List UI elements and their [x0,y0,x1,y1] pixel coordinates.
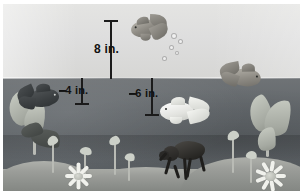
measurement-minus-6-in: –6 in. [129,78,185,120]
flower-right [250,161,290,191]
measurement-minus-6-in-label: –6 in. [129,87,158,99]
beetle-leg-2 [173,165,180,179]
measurement-8-in: 8 in. [95,20,155,82]
flower-left [61,163,95,189]
beetle-leg-4 [186,158,192,178]
plant-right-broad [246,91,294,157]
air-bubble-5 [162,56,167,61]
water-beetle [159,141,211,185]
air-bubble-1 [171,33,177,39]
measurement-minus-4-in-label: –4 in. [59,84,88,96]
illustration-frame: 8 in. –4 in. –6 in. [3,4,300,191]
bud-stem-3 [109,133,123,175]
bud-stem-1 [47,133,61,173]
fish-surface-goldfish [218,60,266,91]
bud-stem-5 [227,127,241,173]
air-bubble-2 [178,39,183,44]
measurement-8-in-label: 8 in. [94,42,119,56]
air-bubble-4 [175,51,179,55]
beetle-leg-5 [199,156,206,172]
measurement-minus-6-in-bottom-cap [145,114,159,116]
measurement-minus-4-in: –4 in. [59,78,113,108]
air-bubble-3 [169,45,174,50]
bud-stem-4 [123,151,137,181]
figure-canvas: 8 in. –4 in. –6 in. [0,0,303,194]
measurement-minus-4-in-bottom-cap [75,103,89,105]
